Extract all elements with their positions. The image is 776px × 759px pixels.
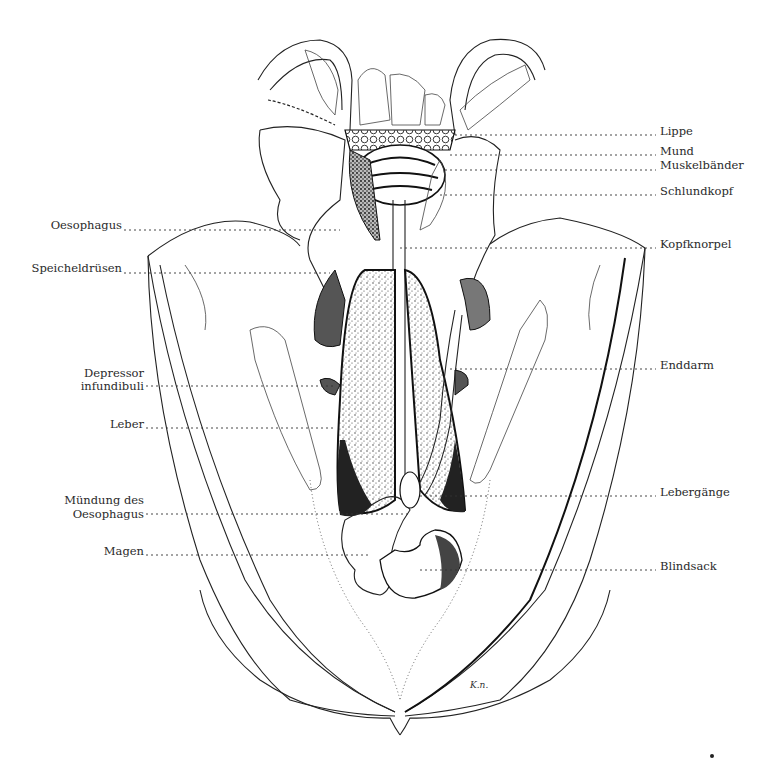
right-gill — [470, 300, 548, 483]
bile-duct-ampulla — [400, 472, 420, 508]
label-muendung-line-2: Oesophagus — [0, 508, 144, 521]
mantle — [148, 218, 645, 735]
label-muendung-line-1: Mündung des — [0, 494, 144, 507]
depressor-muscle-right — [455, 370, 468, 395]
label-enddarm: Enddarm — [660, 359, 714, 372]
label-speicheldruesen: Speicheldrüsen — [0, 262, 122, 275]
label-lebergaenge: Lebergänge — [660, 486, 730, 499]
label-kopfknorpel: Kopfknorpel — [660, 238, 731, 251]
label-schlundkopf: Schlundkopf — [660, 185, 733, 198]
label-mund: Mund — [660, 145, 694, 158]
label-depressor-line-2: infundibuli — [0, 380, 144, 393]
label-blindsack: Blindsack — [660, 560, 717, 573]
label-magen: Magen — [0, 545, 144, 558]
label-oesophagus: Oesophagus — [0, 219, 122, 232]
artist-signature: K.n. — [470, 680, 488, 690]
left-gill — [250, 327, 321, 490]
depressor-muscle-left — [320, 378, 340, 395]
label-leber: Leber — [0, 418, 144, 431]
label-muskelbaender: Muskelbänder — [660, 159, 744, 172]
stray-mark — [710, 754, 714, 758]
right-salivary-gland — [460, 278, 490, 330]
label-lippe: Lippe — [660, 125, 693, 138]
anatomical-diagram: Oesophagus Speicheldrüsen Depressor infu… — [0, 0, 776, 759]
left-salivary-gland — [314, 270, 345, 347]
